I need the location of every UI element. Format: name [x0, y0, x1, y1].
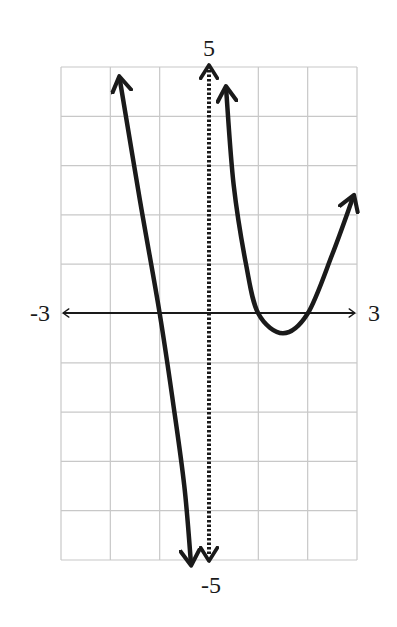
- x-min-label: -3: [30, 300, 50, 326]
- right-branch-curve: [226, 92, 352, 334]
- y-max-label: 5: [203, 35, 215, 61]
- x-max-label: 3: [368, 300, 380, 326]
- function-graph: 5 -5 -3 3: [0, 0, 397, 627]
- y-min-label: -5: [201, 572, 221, 598]
- left-branch-curve: [120, 82, 191, 560]
